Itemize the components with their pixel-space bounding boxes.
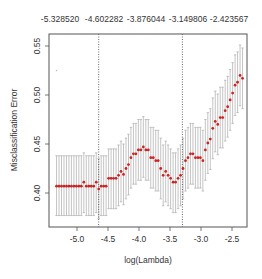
data-point	[236, 81, 239, 84]
outlier-point	[56, 70, 58, 72]
data-point	[152, 156, 155, 159]
data-point	[120, 170, 123, 173]
data-point	[189, 152, 192, 155]
top-tick-label: -5.328520	[41, 14, 80, 24]
top-tick-label: -4.602282	[85, 14, 124, 24]
data-point	[55, 185, 58, 188]
data-point	[58, 185, 61, 188]
data-point	[182, 167, 185, 170]
data-point	[194, 156, 197, 159]
data-point	[112, 177, 115, 180]
data-point	[135, 152, 138, 155]
x-tick-label: -4.5	[101, 234, 116, 244]
error-bars	[55, 45, 243, 218]
data-point	[102, 185, 105, 188]
data-point	[80, 185, 83, 188]
y-tick-label: 0.55	[32, 37, 42, 54]
data-point	[110, 177, 113, 180]
data-point	[216, 123, 219, 126]
data-point	[157, 159, 160, 162]
x-axis: -5.0-4.5-4.0-3.5-3.0-2.5	[70, 227, 240, 244]
data-point	[174, 181, 177, 184]
data-point	[68, 185, 71, 188]
x-axis-title: log(Lambda)	[124, 255, 172, 265]
data-point	[115, 177, 118, 180]
data-point	[139, 148, 142, 151]
data-point	[167, 174, 170, 177]
x-tick-label: -3.5	[163, 234, 178, 244]
data-point	[132, 152, 135, 155]
y-axis-title: Misclassification Error	[9, 89, 19, 172]
x-tick-label: -3.0	[194, 234, 209, 244]
data-point	[77, 185, 80, 188]
data-point	[87, 185, 90, 188]
data-point	[239, 74, 242, 77]
data-point	[187, 156, 190, 159]
data-point	[241, 77, 244, 80]
data-point	[107, 177, 110, 180]
top-tick-label: -3.149806	[169, 14, 208, 24]
data-point	[234, 84, 237, 87]
cv-misclassification-chart: -5.0-4.5-4.0-3.5-3.0-2.5 0.400.450.500.5…	[0, 0, 262, 279]
data-point	[100, 185, 103, 188]
data-point	[214, 120, 217, 123]
data-point	[164, 170, 167, 173]
data-point	[105, 185, 108, 188]
data-point	[219, 116, 222, 119]
data-point	[142, 146, 145, 149]
y-tick-label: 0.45	[32, 135, 42, 152]
data-point	[172, 181, 175, 184]
data-point	[144, 148, 147, 151]
y-tick-label: 0.50	[32, 86, 42, 103]
data-point	[197, 156, 200, 159]
data-point	[90, 185, 93, 188]
x-tick-label: -5.0	[70, 234, 85, 244]
data-point	[231, 92, 234, 95]
data-point	[159, 167, 162, 170]
data-point	[117, 174, 120, 177]
data-point	[162, 174, 165, 177]
data-point	[60, 185, 63, 188]
data-point	[199, 156, 202, 159]
data-points	[55, 70, 244, 191]
data-point	[73, 185, 76, 188]
data-point	[229, 99, 232, 102]
data-point	[184, 159, 187, 162]
y-tick-label: 0.40	[32, 184, 42, 201]
data-point	[147, 148, 150, 151]
y-axis: 0.400.450.500.55	[32, 37, 49, 201]
data-point	[179, 174, 182, 177]
x-tick-label: -4.0	[132, 234, 147, 244]
top-axis: -5.328520-4.602282-3.876044-3.149806-2.4…	[41, 14, 249, 24]
data-point	[204, 148, 207, 151]
data-point	[169, 177, 172, 180]
data-point	[224, 109, 227, 112]
data-point	[201, 159, 204, 162]
data-point	[221, 116, 224, 119]
data-point	[177, 177, 180, 180]
data-point	[95, 181, 98, 184]
data-point	[63, 185, 66, 188]
data-point	[122, 173, 125, 176]
data-point	[82, 181, 85, 184]
data-point	[97, 188, 100, 191]
data-point	[92, 185, 95, 188]
data-point	[85, 185, 88, 188]
data-point	[70, 185, 73, 188]
data-point	[127, 163, 130, 166]
data-point	[130, 156, 133, 159]
top-tick-label: -3.876044	[127, 14, 166, 24]
top-tick-label: -2.423567	[210, 14, 249, 24]
data-point	[209, 138, 212, 141]
data-point	[206, 142, 209, 145]
data-point	[137, 148, 140, 151]
data-point	[65, 185, 68, 188]
x-tick-label: -2.5	[225, 234, 240, 244]
data-point	[226, 105, 229, 108]
data-point	[125, 167, 128, 170]
data-point	[149, 156, 152, 159]
data-point	[154, 159, 157, 162]
data-point	[192, 152, 195, 155]
data-point	[75, 185, 78, 188]
data-point	[211, 127, 214, 130]
